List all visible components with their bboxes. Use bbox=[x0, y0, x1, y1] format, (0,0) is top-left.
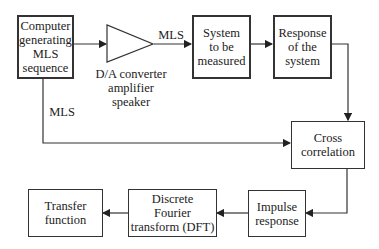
node-cross-label: Cross correlation bbox=[301, 131, 355, 159]
arrow-cross-to-impulse bbox=[306, 168, 347, 213]
node-transfer-function: Transfer function bbox=[28, 189, 103, 237]
node-dft: Discrete Fourier transform (DFT) bbox=[128, 189, 217, 237]
node-impulse-response: Impulse response bbox=[248, 190, 306, 237]
node-impulse-label: Impulse response bbox=[255, 200, 299, 228]
edge-label-mls-top: MLS bbox=[156, 28, 186, 42]
node-dft-label: Discrete Fourier transform (DFT) bbox=[131, 192, 215, 234]
node-response-label: Response of the system bbox=[279, 26, 327, 68]
node-system: System to be measured bbox=[192, 15, 251, 79]
amplifier-triangle-icon bbox=[107, 25, 153, 62]
node-computer-label: Computer generating MLS sequence bbox=[19, 19, 72, 75]
node-transfer-label: Transfer function bbox=[45, 199, 87, 227]
edge-label-mls-left: MLS bbox=[47, 105, 77, 119]
node-response: Response of the system bbox=[273, 15, 332, 79]
arrow-response-to-cross bbox=[331, 44, 348, 120]
node-computer: Computer generating MLS sequence bbox=[17, 15, 74, 79]
node-cross-correlation: Cross correlation bbox=[291, 121, 365, 169]
amplifier-label: D/A converter amplifier speaker bbox=[92, 67, 170, 109]
node-system-label: System to be measured bbox=[198, 26, 246, 68]
